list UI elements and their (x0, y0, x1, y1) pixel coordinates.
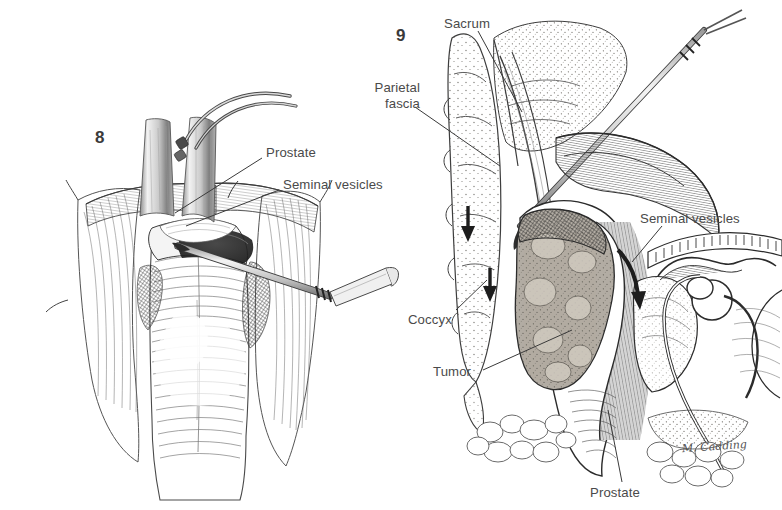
label-seminal-vesicles-fig9: Seminal vesicles (640, 211, 740, 226)
figure-plate: 8 9 Prostate Seminal vesicles Sacrum Par… (0, 0, 782, 510)
figure-number-9: 9 (396, 26, 405, 46)
fig8-rectal-stump (150, 232, 249, 500)
label-seminal-vesicles-fig8: Seminal vesicles (283, 177, 383, 192)
label-sacrum: Sacrum (444, 16, 490, 31)
label-parietal-fascia: Parietal fascia (364, 80, 420, 112)
label-prostate-fig8: Prostate (266, 145, 316, 160)
label-coccyx: Coccyx (408, 312, 452, 327)
figure-8-artwork (0, 0, 782, 510)
figure-number-8: 8 (95, 128, 104, 148)
label-tumor: Tumor (433, 364, 471, 379)
label-prostate-fig9: Prostate (590, 485, 640, 500)
